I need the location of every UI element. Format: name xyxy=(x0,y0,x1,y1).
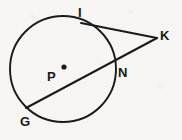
label-point-p: P xyxy=(47,70,56,83)
label-point-g: G xyxy=(20,115,30,128)
label-point-k: K xyxy=(160,29,169,42)
label-point-i: I xyxy=(78,6,82,19)
label-point-n: N xyxy=(118,66,127,79)
center-dot-p xyxy=(61,64,66,69)
geometry-figure: I K N P G xyxy=(0,0,182,140)
tangent-segment-ik xyxy=(81,23,157,38)
secant-segment-gk xyxy=(26,38,157,108)
